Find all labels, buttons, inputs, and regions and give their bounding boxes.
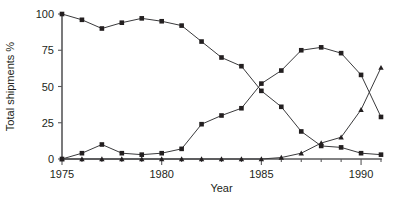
data-point-marker	[159, 19, 164, 24]
data-point-marker	[60, 12, 65, 17]
y-tick-label: 0	[48, 153, 54, 165]
chart-figure: 02550751001975198019851990YearTotal ship…	[0, 0, 395, 201]
y-tick-label: 50	[42, 81, 54, 93]
data-point-marker	[299, 129, 304, 134]
data-point-marker	[299, 48, 304, 53]
data-point-marker	[339, 145, 344, 150]
data-point-marker	[239, 64, 244, 69]
data-point-marker	[199, 39, 204, 44]
data-point-marker	[359, 151, 364, 156]
y-tick-label: 25	[42, 117, 54, 129]
data-point-marker	[120, 20, 125, 25]
data-point-marker	[259, 81, 264, 86]
x-tick-label: 1980	[149, 168, 173, 180]
data-point-marker	[378, 65, 383, 70]
data-point-marker	[358, 107, 363, 112]
x-tick-label: 1975	[50, 168, 74, 180]
data-point-marker	[339, 51, 344, 56]
data-point-marker	[219, 55, 224, 60]
data-point-marker	[319, 45, 324, 50]
data-point-marker	[100, 26, 105, 31]
series-line-rising-peak-series	[62, 47, 381, 159]
y-tick-label: 100	[36, 8, 54, 20]
data-point-marker	[259, 89, 264, 94]
data-point-marker	[299, 151, 304, 156]
data-point-marker	[239, 106, 244, 111]
data-point-marker	[219, 113, 224, 118]
data-point-marker	[379, 152, 384, 157]
series-line-declining-series	[62, 14, 381, 155]
data-point-marker	[179, 147, 184, 152]
data-point-marker	[379, 115, 384, 120]
y-tick-label: 75	[42, 44, 54, 56]
data-point-marker	[120, 151, 125, 156]
data-point-marker	[279, 105, 284, 110]
x-tick-label: 1985	[249, 168, 273, 180]
data-point-marker	[100, 142, 105, 147]
x-axis-title: Year	[210, 182, 233, 194]
data-point-marker	[159, 151, 164, 156]
data-point-marker	[199, 122, 204, 127]
data-point-marker	[279, 68, 284, 73]
data-point-marker	[80, 151, 85, 156]
data-point-marker	[179, 23, 184, 28]
y-axis-title: Total shipments %	[4, 42, 16, 131]
data-point-marker	[359, 73, 364, 78]
x-tick-label: 1990	[349, 168, 373, 180]
data-point-marker	[139, 16, 144, 21]
data-point-marker	[80, 18, 85, 23]
line-chart: 02550751001975198019851990YearTotal ship…	[0, 0, 395, 201]
data-point-marker	[139, 152, 144, 157]
